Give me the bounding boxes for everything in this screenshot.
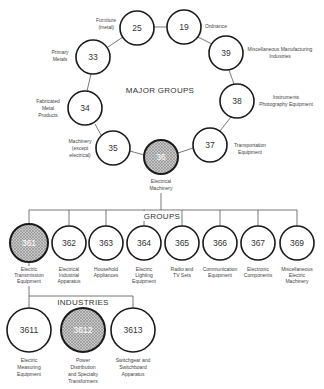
label: Equipment [208, 272, 233, 278]
label: and Specialty [68, 371, 99, 377]
group-node-366[interactable]: 366 Communication Equipment [203, 226, 238, 278]
label: Instruments [273, 94, 300, 100]
label: Transformers [68, 378, 98, 384]
label: Switchboard [119, 364, 147, 370]
group-node-365[interactable]: 365 Radio and TV Sets [165, 226, 199, 278]
svg-text:33: 33 [88, 52, 98, 62]
industry-node-3612[interactable]: 3612 Power Distribution and Specialty Tr… [61, 308, 105, 384]
group-node-367[interactable]: 367 Electronic Components [241, 226, 275, 278]
svg-text:363: 363 [99, 238, 113, 248]
label: Equipment [17, 371, 42, 377]
label: Equipment [238, 149, 263, 155]
industry-node-3611[interactable]: 3611 Electric Measuring Equipment [7, 308, 51, 377]
major-group-node-25[interactable]: 25 Furniture (metal) [96, 11, 154, 45]
svg-text:365: 365 [175, 238, 189, 248]
label: Measuring [17, 364, 41, 370]
svg-text:35: 35 [108, 143, 118, 153]
svg-text:38: 38 [232, 96, 242, 106]
svg-text:37: 37 [205, 140, 215, 150]
groups-connectors [29, 193, 297, 226]
svg-text:19: 19 [179, 22, 189, 32]
major-group-node-35[interactable]: 35 Machinery (except electrical) [68, 131, 130, 165]
label: Metals [53, 56, 68, 62]
svg-text:3613: 3613 [124, 325, 143, 335]
label: Electrical [151, 178, 171, 184]
major-group-node-37[interactable]: 37 Transportation Equipment [193, 128, 266, 162]
sic-hierarchy-diagram: MAJOR GROUPS 25 Furniture (metal) 19 Ord… [0, 0, 324, 389]
group-node-361[interactable]: 361 Electric Transmission Equipment [10, 224, 48, 284]
label: Electric [21, 357, 38, 363]
svg-text:366: 366 [213, 238, 227, 248]
label: Switchgear and [116, 357, 151, 363]
label: Apparatus [122, 371, 145, 377]
svg-text:39: 39 [221, 48, 231, 58]
label: Equipment [17, 278, 42, 284]
label: Products [38, 112, 58, 118]
svg-text:362: 362 [62, 238, 76, 248]
label: Photography Equipment [259, 101, 313, 107]
group-node-369[interactable]: 369 Miscellaneous Electric Machinery [280, 226, 314, 284]
label: TV Sets [173, 272, 191, 278]
label: (metal) [98, 24, 114, 30]
svg-text:369: 369 [290, 238, 304, 248]
label: Fabricated [36, 98, 60, 104]
svg-text:3611: 3611 [20, 325, 39, 335]
label: Distribution [70, 364, 95, 370]
label: Furniture [96, 17, 116, 23]
label: Equipment [132, 278, 157, 284]
label: Appliances [94, 272, 119, 278]
major-group-node-39[interactable]: 39 Miscellaneous Manufacturing Industrie… [209, 36, 313, 70]
label: Apparatus [58, 278, 81, 284]
label: Ordnance [205, 23, 227, 29]
label: Industries [269, 53, 291, 59]
label: Metal [42, 105, 54, 111]
label: Power [76, 357, 91, 363]
group-node-364[interactable]: 364 Electric Lighting Equipment [127, 226, 161, 284]
label: Machinery [68, 138, 92, 144]
industry-node-3613[interactable]: 3613 Switchgear and Switchboard Apparatu… [111, 308, 155, 377]
label: Machinery [285, 278, 309, 284]
groups-heading: GROUPS [144, 212, 180, 221]
major-group-node-34[interactable]: 34 Fabricated Metal Products [36, 91, 102, 125]
industries-heading: INDUSTRIES [57, 298, 108, 307]
label: Primary [51, 49, 69, 55]
label: Transportation [234, 142, 266, 148]
svg-text:361: 361 [22, 238, 36, 248]
label: Miscellaneous Manufacturing [248, 46, 313, 52]
svg-text:3612: 3612 [74, 325, 93, 335]
label: Components [244, 272, 273, 278]
label: Machinery [149, 185, 173, 191]
major-group-node-33[interactable]: 33 Primary Metals [51, 40, 110, 74]
svg-text:34: 34 [80, 103, 90, 113]
svg-text:25: 25 [132, 23, 142, 33]
group-node-363[interactable]: 363 Household Appliances [89, 226, 123, 278]
svg-text:367: 367 [251, 238, 265, 248]
svg-text:364: 364 [137, 238, 151, 248]
major-group-node-36[interactable]: 36 Electrical Machinery [144, 140, 178, 191]
svg-text:36: 36 [156, 152, 166, 162]
label: (except [72, 145, 89, 151]
major-groups-heading: MAJOR GROUPS [126, 86, 195, 95]
major-group-node-38[interactable]: 38 Instruments Photography Equipment [220, 84, 313, 118]
label: electrical) [69, 152, 91, 158]
group-node-362[interactable]: 362 Electrical Industrial Apparatus [52, 226, 86, 284]
